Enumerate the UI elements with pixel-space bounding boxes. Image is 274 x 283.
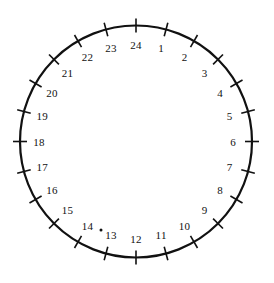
stray-dot-near-14-icon	[100, 229, 103, 232]
dial-tick-label-15: 15	[62, 205, 73, 216]
dial-tick-label-23: 23	[105, 42, 116, 53]
dial-tick-label-20: 20	[46, 88, 57, 99]
dial-tick-14	[75, 236, 82, 248]
dial-tick-8	[230, 196, 242, 203]
dial-tick-label-21: 21	[62, 67, 73, 78]
dial-tick-label-13: 13	[105, 230, 116, 241]
dial-tick-label-3: 3	[202, 67, 208, 78]
dial-tick-label-5: 5	[227, 111, 233, 122]
dial-tick-2	[191, 35, 198, 47]
dial-tick-label-10: 10	[179, 220, 190, 231]
dial-tick-label-7: 7	[227, 161, 233, 172]
dial-tick-10	[191, 236, 198, 248]
dial-tick-label-16: 16	[46, 185, 57, 196]
dial-tick-label-1: 1	[158, 42, 164, 53]
dial-tick-label-19: 19	[37, 111, 48, 122]
dial-tick-label-24: 24	[130, 39, 141, 50]
dial-tick-label-6: 6	[230, 136, 236, 147]
circular-dial-figure: 123456789101112131415161718192021222324	[0, 0, 274, 283]
dial-tick-label-17: 17	[37, 161, 48, 172]
dial-tick-group	[13, 19, 259, 265]
dial-tick-label-11: 11	[156, 230, 167, 241]
dial-tick-label-14: 14	[82, 220, 93, 231]
dial-tick-label-4: 4	[217, 88, 223, 99]
dial-tick-20	[29, 80, 41, 87]
dial-tick-label-8: 8	[217, 185, 223, 196]
dial-tick-label-22: 22	[82, 52, 93, 63]
dial-tick-label-18: 18	[33, 136, 44, 147]
dial-tick-label-2: 2	[182, 52, 188, 63]
dial-tick-22	[75, 35, 82, 47]
dial-tick-4	[230, 80, 242, 87]
dial-tick-label-12: 12	[130, 233, 141, 244]
dial-tick-label-9: 9	[202, 205, 208, 216]
dial-tick-16	[29, 196, 41, 203]
